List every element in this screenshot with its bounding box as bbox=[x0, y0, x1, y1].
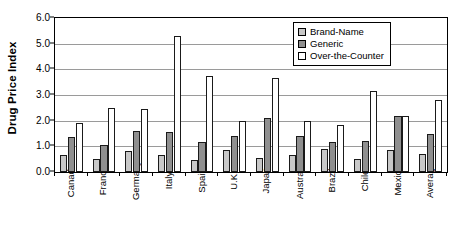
y-axis-tick-label: 5.0 bbox=[36, 37, 50, 48]
bar bbox=[141, 109, 148, 172]
bar bbox=[93, 159, 100, 172]
bar bbox=[100, 145, 107, 172]
bar bbox=[435, 100, 442, 172]
bar bbox=[402, 116, 409, 172]
y-axis-tick-label: 1.0 bbox=[36, 140, 50, 151]
x-axis-category-label: Chile bbox=[348, 175, 381, 231]
legend-item-label: Over-the-Counter bbox=[310, 50, 384, 62]
bar bbox=[354, 159, 361, 172]
bar bbox=[427, 134, 434, 173]
legend-item: Over-the-Counter bbox=[298, 50, 384, 62]
bar bbox=[60, 155, 67, 172]
bar bbox=[419, 154, 426, 172]
bar bbox=[394, 116, 401, 172]
bar bbox=[239, 121, 246, 172]
x-axis-tick-mark bbox=[446, 172, 447, 176]
bar bbox=[264, 118, 271, 172]
x-axis-category-label: Mexico bbox=[381, 175, 414, 231]
bar-group bbox=[223, 18, 246, 172]
legend-item-label: Generic bbox=[310, 38, 343, 50]
bar bbox=[231, 136, 238, 172]
y-axis-tick-label: 4.0 bbox=[36, 63, 50, 74]
legend-swatch-icon bbox=[298, 28, 306, 36]
x-axis-category-label-text: Italy bbox=[163, 172, 174, 189]
legend-item: Brand-Name bbox=[298, 26, 384, 38]
bar-group bbox=[419, 18, 442, 172]
y-axis-tick-label: 0.0 bbox=[36, 166, 50, 177]
legend-swatch-icon bbox=[298, 40, 306, 48]
bar bbox=[158, 155, 165, 172]
bar bbox=[387, 150, 394, 172]
bar bbox=[68, 137, 75, 172]
legend-swatch-icon bbox=[298, 52, 306, 60]
bar bbox=[304, 121, 311, 172]
drug-price-index-chart: Drug Price Index 0.01.02.03.04.05.06.0 C… bbox=[0, 0, 451, 231]
bar bbox=[362, 141, 369, 172]
x-axis-category-label: France bbox=[87, 175, 120, 231]
y-axis-title: Drug Price Index bbox=[0, 0, 22, 175]
bar bbox=[76, 123, 83, 172]
y-axis-tick-label: 3.0 bbox=[36, 89, 50, 100]
y-axis-tick-labels: 0.01.02.03.04.05.06.0 bbox=[22, 0, 54, 180]
bar-group bbox=[256, 18, 279, 172]
bar bbox=[321, 149, 328, 172]
y-axis-tick-label: 6.0 bbox=[36, 12, 50, 23]
bar bbox=[133, 131, 140, 172]
bar bbox=[125, 151, 132, 172]
legend-item-label: Brand-Name bbox=[310, 26, 364, 38]
x-axis-category-label: Spain bbox=[185, 175, 218, 231]
bar-group bbox=[191, 18, 214, 172]
bar bbox=[174, 36, 181, 172]
bar-group bbox=[125, 18, 148, 172]
bar bbox=[289, 155, 296, 172]
bar bbox=[337, 125, 344, 172]
bar bbox=[370, 91, 377, 172]
x-axis-category-label-text: Brazil bbox=[326, 169, 337, 193]
y-axis-title-text: Drug Price Index bbox=[5, 41, 17, 134]
legend-item: Generic bbox=[298, 38, 384, 50]
bar-group bbox=[158, 18, 181, 172]
bar bbox=[206, 76, 213, 172]
bar bbox=[296, 136, 303, 172]
x-axis-category-label: Average bbox=[413, 175, 446, 231]
x-axis-category-label: Canada bbox=[54, 175, 87, 231]
y-axis-tick-label: 2.0 bbox=[36, 114, 50, 125]
x-axis-category-label: U.K. bbox=[217, 175, 250, 231]
x-axis-category-label: Japan bbox=[250, 175, 283, 231]
bar bbox=[108, 108, 115, 172]
bar bbox=[166, 132, 173, 172]
x-axis-category-label: Brazil bbox=[315, 175, 348, 231]
bar-group bbox=[93, 18, 116, 172]
bar bbox=[272, 78, 279, 172]
bar-group bbox=[60, 18, 83, 172]
x-axis-category-labels: CanadaFranceGermanyItalySpainU.K.JapanAu… bbox=[54, 172, 446, 231]
x-axis-category-label-text: U.K. bbox=[228, 171, 239, 189]
x-axis-category-label-text: Chile bbox=[359, 170, 370, 192]
x-axis-category-label: Australia bbox=[283, 175, 316, 231]
x-axis-category-label: Italy bbox=[152, 175, 185, 231]
bar bbox=[191, 160, 198, 172]
bar bbox=[329, 142, 336, 172]
bar bbox=[198, 142, 205, 172]
chart-legend: Brand-NameGenericOver-the-Counter bbox=[293, 22, 391, 66]
x-axis-category-label: Germany bbox=[119, 175, 152, 231]
bar bbox=[256, 158, 263, 172]
bar bbox=[223, 150, 230, 172]
